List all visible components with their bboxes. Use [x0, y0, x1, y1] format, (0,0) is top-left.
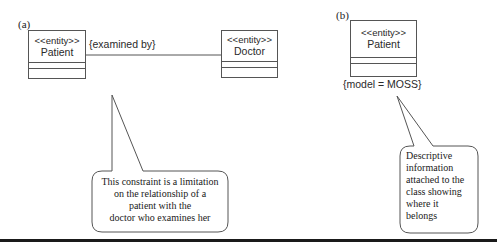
- examined-by-constraint: {examined by}: [89, 38, 156, 50]
- callout-b-line: information: [406, 162, 478, 174]
- uml-constraint-diagram: (a) <<entity>> Patient {examined by} <<e…: [0, 0, 497, 249]
- patient-class-b[interactable]: <<entity>> Patient: [350, 20, 417, 77]
- callout-a-line: patient with the: [94, 200, 226, 212]
- doctor-class[interactable]: <<entity>> Doctor: [221, 30, 278, 78]
- callout-a-text: This constraint is a limitation on the r…: [94, 176, 226, 224]
- patient-class-a[interactable]: <<entity>> Patient: [28, 30, 86, 79]
- callout-a-line: This constraint is a limitation: [94, 176, 226, 188]
- doctor-operations-compartment: [222, 68, 277, 77]
- callout-b-line: where it: [406, 198, 478, 210]
- patient-b-operations-compartment: [351, 64, 416, 76]
- callout-b-text: Descriptive information attached to the …: [406, 150, 478, 222]
- patient-operations-compartment: [29, 69, 85, 78]
- patient-name-compartment: <<entity>> Patient: [29, 31, 85, 63]
- panel-b-label: (b): [336, 9, 349, 21]
- doctor-name-compartment: <<entity>> Doctor: [222, 31, 277, 62]
- patient-class-name: Patient: [29, 46, 85, 59]
- panel-a-label: (a): [18, 18, 30, 30]
- patient-b-name-compartment: <<entity>> Patient: [351, 21, 416, 58]
- doctor-stereotype: <<entity>>: [222, 34, 277, 45]
- bottom-divider-rule: [0, 239, 497, 242]
- callout-b-line: class showing: [406, 186, 478, 198]
- callout-b-line: attached to the: [406, 174, 478, 186]
- patient-b-stereotype: <<entity>>: [351, 27, 416, 38]
- patient-stereotype: <<entity>>: [29, 35, 85, 46]
- callout-a-line: doctor who examines her: [94, 212, 226, 224]
- callout-a-line: on the relationship of a: [94, 188, 226, 200]
- doctor-class-name: Doctor: [222, 45, 277, 58]
- callout-b-line: belongs: [406, 210, 478, 222]
- patient-b-class-name: Patient: [351, 38, 416, 51]
- callout-b-line: Descriptive: [406, 150, 478, 162]
- model-tagged-value: {model = MOSS}: [343, 78, 422, 90]
